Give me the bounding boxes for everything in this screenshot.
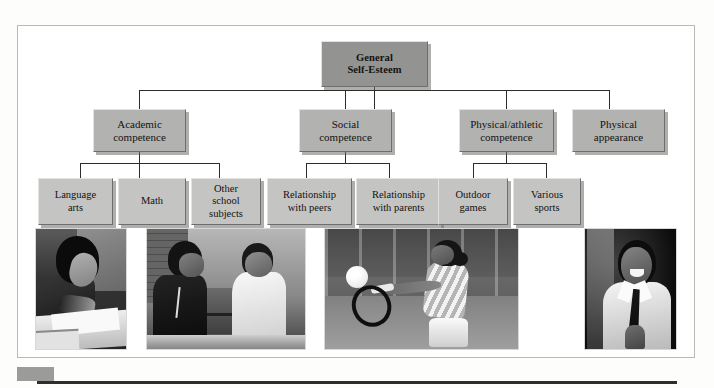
- node-various-sports[interactable]: Various sports: [513, 178, 581, 225]
- node-label-line1: Social: [319, 118, 372, 131]
- node-relationship-with-peers[interactable]: Relationship with peers: [267, 178, 352, 225]
- connector-academic-to-other-subjects: [219, 163, 220, 179]
- node-academic-competence[interactable]: Academic competence: [93, 109, 186, 152]
- page: General Self-Esteem Academic competence …: [0, 0, 714, 388]
- node-label-line1: Physical: [594, 118, 643, 131]
- node-relationship-with-parents[interactable]: Relationship with parents: [356, 178, 441, 225]
- node-label-line1: Other: [209, 183, 243, 195]
- node-label-line2: competence: [319, 131, 372, 144]
- connector-bus-to-academic: [139, 90, 140, 109]
- connector-academic-to-language-arts: [80, 163, 81, 179]
- node-label-line2: competence: [113, 131, 166, 144]
- connector-level2-bus: [139, 90, 609, 91]
- connector-academic-bus: [80, 163, 220, 164]
- connector-bus-to-physical-athletic: [506, 90, 507, 109]
- photo-smiling-boy-in-shirt-and-tie: [584, 228, 677, 350]
- photo-strip: [18, 228, 694, 358]
- connector-social-to-peers: [306, 163, 307, 179]
- node-label-line2: with peers: [283, 202, 336, 214]
- connector-bus-to-physical-appearance: [609, 90, 610, 109]
- node-general-self-esteem[interactable]: General Self-Esteem: [321, 41, 428, 87]
- node-physical-athletic-competence[interactable]: Physical/athletic competence: [459, 109, 554, 152]
- node-label-line1: Language: [55, 189, 96, 201]
- node-label-line3: subjects: [209, 208, 243, 220]
- node-label-line1: Outdoor: [456, 189, 491, 201]
- node-label-line1: Various: [531, 189, 563, 201]
- hierarchy-diagram: General Self-Esteem Academic competence …: [18, 26, 694, 226]
- node-physical-appearance[interactable]: Physical appearance: [572, 109, 665, 152]
- node-math[interactable]: Math: [118, 178, 186, 225]
- node-other-school-subjects[interactable]: Other school subjects: [191, 178, 261, 225]
- connector-bus-to-social: [345, 90, 346, 109]
- connector-physical-bus: [473, 163, 547, 164]
- node-language-arts[interactable]: Language arts: [38, 178, 113, 225]
- photo-scene: [36, 229, 126, 349]
- node-label-line2: games: [456, 202, 491, 214]
- node-label-line1: Physical/athletic: [470, 118, 543, 131]
- connector-physical-to-outdoor-games: [473, 163, 474, 179]
- photo-two-children-at-table: [146, 228, 306, 350]
- connector-social-to-parents: [389, 163, 390, 179]
- photo-scene: [147, 229, 305, 349]
- node-label-line2: Self-Esteem: [347, 64, 401, 76]
- node-label-line1: Relationship: [283, 189, 336, 201]
- figure-frame: General Self-Esteem Academic competence …: [17, 25, 695, 358]
- node-outdoor-games[interactable]: Outdoor games: [438, 178, 508, 225]
- connector-physical-to-various-sports: [546, 163, 547, 179]
- node-social-competence[interactable]: Social competence: [299, 109, 392, 152]
- node-label-line1: Math: [141, 195, 163, 207]
- node-label-line2: competence: [470, 131, 543, 144]
- node-label-line2: appearance: [594, 131, 643, 144]
- node-label-line1: Relationship: [372, 189, 425, 201]
- node-label-line1: General: [347, 52, 401, 64]
- connector-academic-to-math: [139, 163, 140, 179]
- caption-divider-rule: [37, 381, 677, 384]
- node-label-line1: Academic: [113, 118, 166, 131]
- photo-child-writing-at-desk: [35, 228, 127, 350]
- node-label-line2: with parents: [372, 202, 425, 214]
- node-label-line2: sports: [531, 202, 563, 214]
- node-label-line2: arts: [55, 202, 96, 214]
- photo-girl-playing-tennis: [324, 228, 519, 350]
- node-label-line2: school: [209, 195, 243, 207]
- caption-number-swatch: [17, 367, 54, 381]
- connector-social-bus: [306, 163, 390, 164]
- photo-scene: [585, 229, 676, 349]
- photo-scene: [325, 229, 518, 349]
